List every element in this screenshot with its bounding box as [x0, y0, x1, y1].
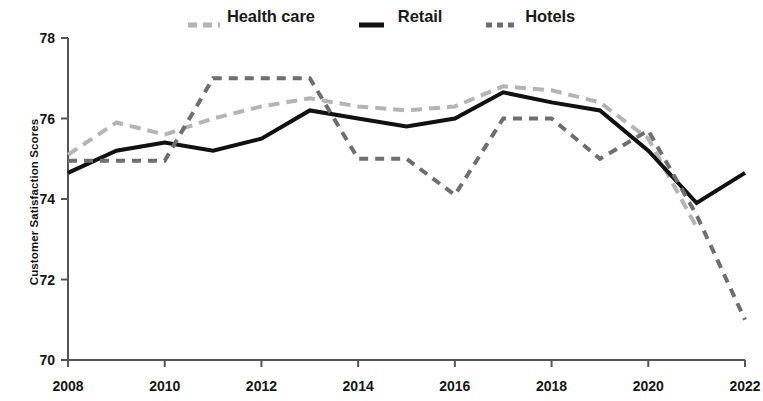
y-tick-label: 76 [39, 111, 55, 127]
y-axis-ticks: 7072747678 [39, 30, 68, 368]
x-tick-label: 2020 [633, 378, 664, 394]
x-tick-label: 2010 [149, 378, 180, 394]
x-tick-label: 2018 [536, 378, 567, 394]
series-lines [68, 78, 745, 320]
x-tick-label: 2012 [246, 378, 277, 394]
x-tick-label: 2016 [439, 378, 470, 394]
y-tick-label: 74 [39, 191, 55, 207]
plot-area: 7072747678 20082010201220142016201820202… [0, 0, 763, 401]
y-tick-label: 78 [39, 30, 55, 46]
series-line-retail [68, 92, 745, 203]
series-line-hotels [68, 78, 745, 320]
x-tick-label: 2008 [52, 378, 83, 394]
chart-container: Health care Retail Hotels Customer Satis… [0, 0, 763, 401]
x-axis-ticks: 20082010201220142016201820202022 [52, 360, 760, 394]
y-tick-label: 70 [39, 352, 55, 368]
y-tick-label: 72 [39, 272, 55, 288]
x-tick-label: 2022 [729, 378, 760, 394]
x-tick-label: 2014 [343, 378, 374, 394]
